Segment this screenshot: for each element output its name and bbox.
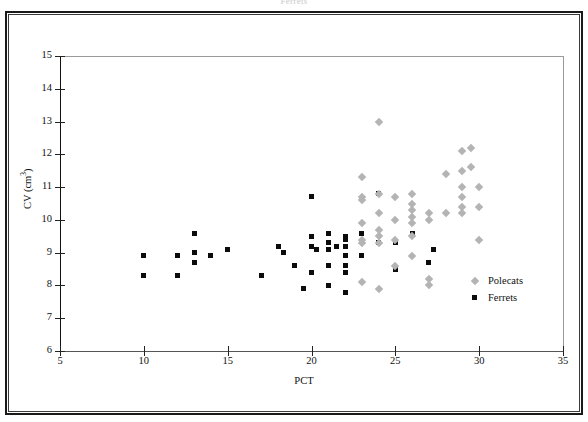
data-point (408, 252, 416, 260)
plot-right-rule (563, 56, 564, 352)
x-tick-label-20: 20 (297, 356, 327, 367)
data-point (358, 219, 366, 227)
data-point (458, 193, 466, 201)
data-point (276, 244, 281, 249)
y-tick-label-7: 7 (22, 312, 52, 323)
y-tick-label-9: 9 (22, 247, 52, 258)
data-point (408, 219, 416, 227)
data-point (475, 235, 483, 243)
data-point (475, 203, 483, 211)
y-tick-label-6: 6 (22, 345, 52, 356)
data-point (314, 247, 319, 252)
data-point (408, 189, 416, 197)
data-point (431, 247, 436, 252)
data-point (425, 216, 433, 224)
data-point (343, 290, 348, 295)
y-tick-15 (55, 56, 65, 57)
data-point (309, 234, 314, 239)
y-tick-8 (55, 285, 65, 286)
legend-label: Polecats (488, 275, 523, 286)
scatter-plot: 6789101112131415 5101520253035 CV (cm3) … (0, 0, 588, 422)
data-point (458, 166, 466, 174)
data-point (458, 183, 466, 191)
data-point (358, 278, 366, 286)
data-point (326, 231, 331, 236)
data-point (374, 117, 382, 125)
plot-top-rule (60, 56, 564, 57)
data-point (141, 253, 146, 258)
data-point (208, 253, 213, 258)
legend-item-ferrets[interactable]: Ferrets (470, 289, 560, 306)
data-point (326, 283, 331, 288)
y-tick-7 (55, 318, 65, 319)
data-point (309, 194, 314, 199)
data-point (281, 250, 286, 255)
data-point (141, 273, 146, 278)
data-point (326, 247, 331, 252)
legend-label: Ferrets (488, 292, 517, 303)
y-tick-10 (55, 220, 65, 221)
x-axis-title: PCT (244, 375, 364, 386)
y-tick-label-15: 15 (22, 50, 52, 61)
data-point (326, 240, 331, 245)
y-tick-13 (55, 122, 65, 123)
data-point (467, 144, 475, 152)
x-tick-label-5: 5 (45, 356, 75, 367)
y-tick-12 (55, 154, 65, 155)
data-point (343, 253, 348, 258)
y-tick-11 (55, 187, 65, 188)
y-axis-title: CV (cm3) (19, 149, 33, 229)
data-point (359, 253, 364, 258)
data-point (425, 281, 433, 289)
x-tick-label-10: 10 (129, 356, 159, 367)
data-point (343, 237, 348, 242)
data-point (301, 286, 306, 291)
data-point (391, 193, 399, 201)
x-tick-label-25: 25 (380, 356, 410, 367)
data-point (343, 270, 348, 275)
data-point (192, 231, 197, 236)
data-point (292, 263, 297, 268)
data-point (343, 263, 348, 268)
legend-item-polecats[interactable]: Polecats (470, 272, 560, 289)
data-point (441, 209, 449, 217)
y-tick-label-8: 8 (22, 279, 52, 290)
y-tick-9 (55, 253, 65, 254)
y-tick-label-14: 14 (22, 83, 52, 94)
data-point (358, 173, 366, 181)
data-point (408, 232, 416, 240)
data-point (343, 244, 348, 249)
data-point (192, 260, 197, 265)
data-point (458, 147, 466, 155)
x-tick-label-35: 35 (548, 356, 578, 367)
data-point (225, 247, 230, 252)
y-axis-line (60, 56, 61, 352)
data-point (467, 163, 475, 171)
y-tick-14 (55, 89, 65, 90)
data-point (259, 273, 264, 278)
y-tick-label-13: 13 (22, 116, 52, 127)
square-marker-icon (472, 295, 477, 300)
data-point (374, 209, 382, 217)
data-point (334, 244, 339, 249)
x-tick-label-30: 30 (464, 356, 494, 367)
data-point (192, 250, 197, 255)
data-point (391, 216, 399, 224)
data-point (374, 284, 382, 292)
data-point (326, 263, 331, 268)
data-point (426, 260, 431, 265)
data-point (309, 270, 314, 275)
diamond-marker-icon (471, 277, 479, 285)
legend: PolecatsFerrets (470, 272, 560, 306)
x-tick-label-15: 15 (213, 356, 243, 367)
data-point (175, 253, 180, 258)
data-point (458, 209, 466, 217)
data-point (441, 170, 449, 178)
data-point (175, 273, 180, 278)
data-point (475, 183, 483, 191)
